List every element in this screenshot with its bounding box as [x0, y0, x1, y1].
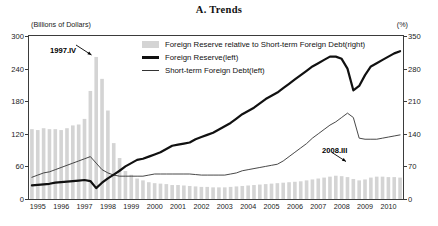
bar	[311, 179, 315, 199]
right-tick-label: 280	[408, 64, 434, 73]
legend-item-foreign-reserve: Foreign Reserve(left)	[142, 52, 365, 64]
x-tick-label: 1995	[30, 202, 46, 211]
left-tick-label: 180	[0, 97, 24, 106]
left-tick-label: 120	[0, 129, 24, 138]
x-tick-label: 2001	[170, 202, 186, 211]
right-tick-mark	[404, 166, 407, 167]
bar	[217, 187, 221, 199]
bar	[141, 180, 145, 199]
bar	[352, 179, 356, 199]
legend-label: Foreign Reserve(left)	[165, 53, 238, 62]
bar	[65, 128, 69, 199]
x-tick-label: 1999	[123, 202, 139, 211]
bar	[387, 177, 391, 199]
x-tick-label: 2003	[217, 202, 233, 211]
bar	[346, 177, 350, 199]
bar	[276, 183, 280, 199]
right-tick-mark	[404, 36, 407, 37]
bar-series	[30, 57, 402, 199]
bar	[270, 184, 274, 199]
bar	[129, 175, 133, 199]
annotation-2008-iii: 2008.III	[322, 146, 347, 155]
bar	[334, 176, 338, 199]
bar	[59, 130, 63, 199]
x-tick-label: 2005	[264, 202, 280, 211]
bar	[281, 183, 285, 199]
arrow-1997-iv	[76, 45, 92, 55]
right-tick-label: 350	[408, 32, 434, 41]
bar	[252, 185, 256, 199]
left-tick-label: 240	[0, 64, 24, 73]
bar	[124, 171, 128, 199]
bar	[53, 129, 57, 199]
chart-legend: Foreign Reserve relative to Short-term F…	[142, 39, 365, 78]
right-tick-label: 140	[408, 129, 434, 138]
x-tick-label: 2007	[310, 202, 326, 211]
x-tick-label: 2006	[287, 202, 303, 211]
bar	[316, 179, 320, 199]
bar	[264, 184, 268, 199]
bar	[357, 180, 361, 199]
right-tick-label: 70	[408, 162, 434, 171]
legend-label: Short-term Foreign Debt(left)	[165, 66, 265, 75]
bar	[188, 186, 192, 199]
thin-line-icon	[142, 70, 159, 71]
bar	[205, 187, 209, 199]
bar	[381, 177, 385, 199]
x-tick-label: 2002	[193, 202, 209, 211]
bar-swatch-icon	[142, 41, 159, 48]
bar	[200, 187, 204, 199]
left-tick-label: 60	[0, 162, 24, 171]
right-tick-label: 210	[408, 97, 434, 106]
bar	[287, 182, 291, 199]
right-tick-mark	[404, 134, 407, 135]
bar	[36, 130, 40, 199]
bar	[170, 185, 174, 199]
left-axis-unit-label: (Billions of Dollars)	[31, 20, 91, 29]
bar	[147, 182, 151, 199]
bar	[211, 187, 215, 199]
bar	[235, 186, 239, 199]
bar	[322, 178, 326, 199]
chart-figure: A. Trends (Billions of Dollars) (%) 0601…	[0, 0, 438, 226]
bar	[240, 186, 244, 199]
bar	[258, 185, 262, 199]
bar	[223, 187, 227, 199]
right-tick-label: 0	[408, 195, 434, 204]
x-tick-label: 2004	[240, 202, 256, 211]
left-tick-label: 0	[0, 195, 24, 204]
page-title: A. Trends	[0, 4, 438, 15]
bar	[94, 57, 98, 199]
x-tick-label: 1998	[100, 202, 116, 211]
bar	[340, 176, 344, 199]
legend-label: Foreign Reserve relative to Short-term F…	[165, 40, 365, 49]
legend-item-foreign-reserve-ratio: Foreign Reserve relative to Short-term F…	[142, 39, 365, 51]
left-tick-label: 300	[0, 32, 24, 41]
bar	[392, 177, 396, 199]
x-tick-label: 1996	[53, 202, 69, 211]
bar	[229, 187, 233, 199]
x-tick-label: 2010	[380, 202, 396, 211]
bar	[246, 185, 250, 199]
bar	[375, 177, 379, 199]
bar	[153, 183, 157, 199]
bar	[106, 111, 110, 199]
bar	[305, 180, 309, 199]
bar	[299, 181, 303, 199]
bar	[165, 184, 169, 199]
bar	[328, 177, 332, 199]
x-tick-label: 2009	[357, 202, 373, 211]
x-tick-label: 2008	[334, 202, 350, 211]
bar	[363, 179, 367, 199]
bar	[398, 178, 402, 199]
bar	[112, 143, 116, 199]
bar	[42, 128, 46, 199]
bar	[369, 178, 373, 199]
right-tick-mark	[404, 101, 407, 102]
bar	[176, 185, 180, 199]
right-tick-mark	[404, 69, 407, 70]
bar	[293, 182, 297, 199]
right-axis-unit-label: (%)	[397, 20, 408, 29]
annotation-1997-iv: 1997.IV	[50, 46, 76, 55]
x-tick-label: 1997	[77, 202, 93, 211]
